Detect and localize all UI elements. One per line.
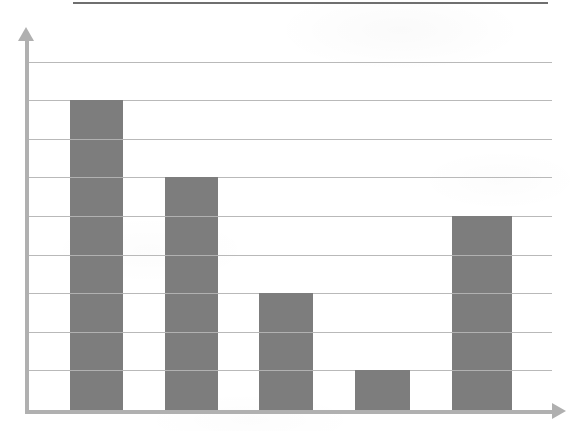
gridline-over-bar [70,293,123,294]
chart-page [0,0,570,431]
gridline-over-bar [452,370,512,371]
x-axis [25,410,554,414]
gridline-over-bar [70,255,123,256]
gridline-over-bar [452,255,512,256]
gridline-over-bar [165,216,218,217]
top-horizontal-rule [73,2,548,4]
gridline-over-bar [70,332,123,333]
gridline-over-bar [259,370,313,371]
gridline-over-bar [165,370,218,371]
bar-4 [355,370,410,410]
y-axis-arrow-icon [18,27,34,41]
gridline-over-bar [452,293,512,294]
gridline-over-bar [70,370,123,371]
gridline-over-bar [165,332,218,333]
gridline-1 [25,62,552,63]
gridline-over-bar [165,255,218,256]
bar-3 [259,293,313,410]
bar-5 [452,216,512,410]
gridline-over-bar [452,332,512,333]
gridline-over-bar [259,332,313,333]
x-axis-arrow-icon [552,403,566,419]
y-axis [25,40,29,411]
gridline-over-bar [70,216,123,217]
gridline-over-bar [70,177,123,178]
gridline-over-bar [70,139,123,140]
gridline-over-bar [165,293,218,294]
